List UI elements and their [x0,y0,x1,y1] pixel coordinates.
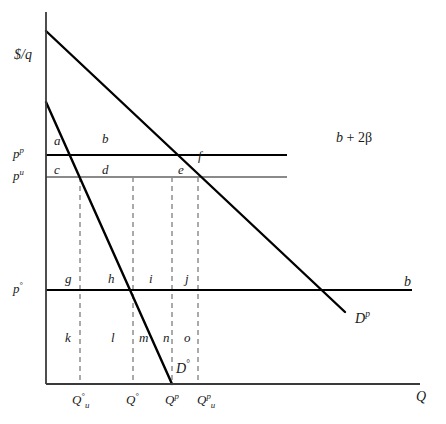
region-label-m: m [139,331,148,344]
axes-group [46,12,420,384]
qty-label-q-o: Q° [126,392,139,410]
annotation-b-right: b [404,275,411,289]
region-label-e: e [178,163,184,176]
region-label-n: n [163,331,170,344]
region-label-i: i [149,272,153,285]
price-label-p-p: pp [13,146,24,160]
demand-curve-label-Do: D° [176,360,190,376]
qty-label-q-p: Qp [165,392,179,410]
annotation-b-plus-2beta: b + 2β [336,131,372,145]
demand-curves-group [46,31,345,384]
region-label-l: l [111,331,115,344]
region-label-g: g [65,272,72,285]
region-label-a: a [54,134,61,147]
figure-canvas [0,0,446,424]
region-label-k: k [65,331,71,344]
region-label-o: o [184,331,191,344]
region-label-b: b [102,132,109,145]
region-label-f: f [198,149,202,162]
qty-label-q-o-u: Q°u [72,392,89,410]
region-label-c: c [54,163,60,176]
region-label-h: h [108,272,115,285]
region-label-j: j [185,272,189,285]
region-label-d: d [102,163,109,176]
y-axis-label: $/q [14,48,32,62]
qty-label-q-p-u: Qpu [197,392,215,410]
supply-demand-figure: $/q Q pp pu p° Q°u Q° Qp Qpu Dp D° b + 2… [0,0,446,424]
demand-curve-label-Dp: Dp [355,310,370,326]
dashed-gridlines-group [80,177,198,384]
price-label-p-o: p° [13,281,23,295]
price-label-p-u: pu [13,168,24,182]
demand-curve-demand-p [46,31,345,312]
x-axis-label: Q [416,390,426,404]
